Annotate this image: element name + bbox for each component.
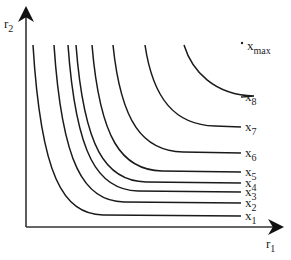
indifference-curve xyxy=(145,45,241,127)
indifference-curve xyxy=(54,45,241,203)
indifference-curve xyxy=(113,45,241,153)
curve-label: x6 xyxy=(245,146,257,163)
indifference-curve xyxy=(184,45,254,97)
curve-label: x7 xyxy=(245,120,257,137)
indifference-curve xyxy=(76,45,241,183)
x-axis-label: r1 xyxy=(266,237,275,254)
curve-label: x8 xyxy=(245,90,257,107)
y-axis-label: r2 xyxy=(4,17,13,34)
curve-group xyxy=(33,45,254,216)
curve-label: x5 xyxy=(245,165,257,182)
x-max-point xyxy=(241,42,243,44)
x-max-label: xmax xyxy=(247,39,271,56)
